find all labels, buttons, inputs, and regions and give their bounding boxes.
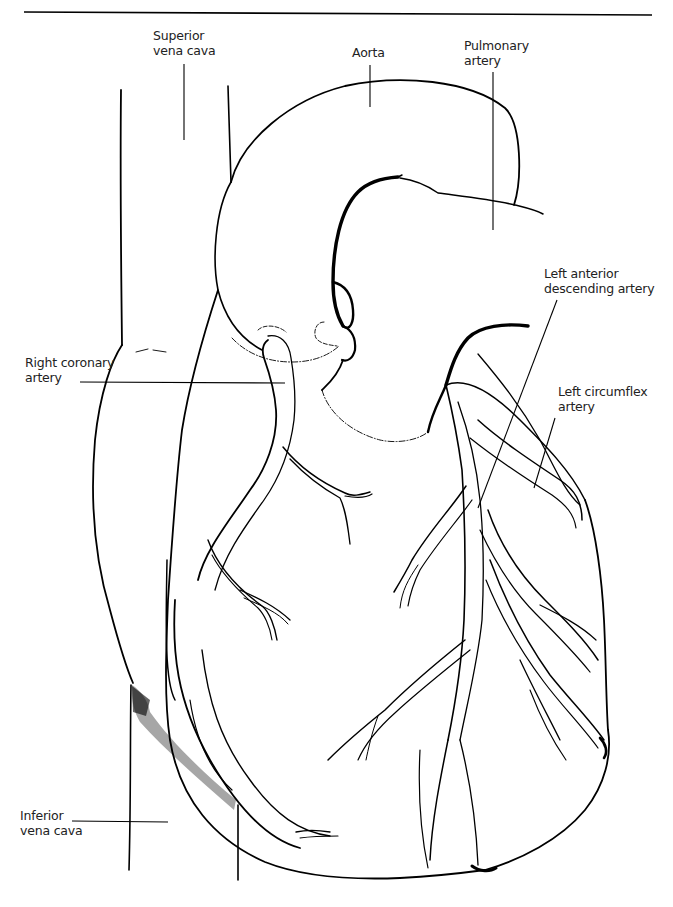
label-line: Left anterior xyxy=(544,266,654,281)
label-line: artery xyxy=(25,370,114,385)
label-line: Superior xyxy=(153,28,215,43)
label-line: vena cava xyxy=(20,823,82,838)
ivc-shadow-stipple xyxy=(132,685,236,810)
leader-lad xyxy=(478,300,557,508)
label-superior-vena-cava: Superior vena cava xyxy=(153,28,215,58)
label-left-circumflex-artery: Left circumflex artery xyxy=(558,384,647,414)
label-line: descending artery xyxy=(544,281,654,296)
label-line: artery xyxy=(464,53,529,68)
label-aorta: Aorta xyxy=(352,45,385,60)
left-anterior-descending-vessel xyxy=(328,385,483,868)
label-line: Inferior xyxy=(20,808,82,823)
label-right-coronary-artery: Right coronary artery xyxy=(25,355,114,385)
label-line: Right coronary xyxy=(25,355,114,370)
top-rule xyxy=(24,12,652,15)
label-line: Pulmonary xyxy=(464,38,529,53)
label-left-anterior-descending-artery: Left anterior descending artery xyxy=(544,266,654,296)
pulmonary-trunk-outline xyxy=(315,175,543,442)
left-circumflex-vessel xyxy=(470,420,606,760)
label-inferior-vena-cava: Inferior vena cava xyxy=(20,808,82,838)
aorta-outline xyxy=(215,80,519,362)
label-line: Aorta xyxy=(352,45,385,60)
leader-inferior-vena-cava xyxy=(72,821,168,822)
heart-diagram xyxy=(0,0,673,907)
label-line: artery xyxy=(558,399,647,414)
label-pulmonary-artery: Pulmonary artery xyxy=(464,38,529,68)
label-line: vena cava xyxy=(153,43,215,58)
label-line: Left circumflex xyxy=(558,384,647,399)
